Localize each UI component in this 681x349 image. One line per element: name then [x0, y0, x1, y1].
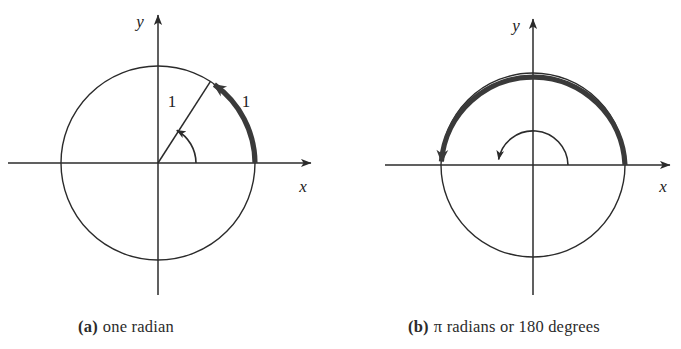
panel-a-caption-tag: (a)	[78, 317, 98, 336]
panel-a: 1 1 x y	[8, 12, 311, 295]
panel-a-caption: (a)one radian	[78, 317, 174, 337]
panel-b: x y	[385, 16, 670, 295]
panel-b-x-axis-label: x	[658, 177, 667, 196]
panel-b-caption-tag: (b)	[408, 317, 429, 336]
panel-a-x-axis-label: x	[298, 177, 307, 196]
panel-a-y-axis-label: y	[134, 12, 144, 31]
panel-a-arc-label: 1	[242, 92, 251, 111]
panel-b-y-axis-label: y	[510, 16, 520, 35]
panel-b-caption-text: π radians or 180 degrees	[434, 317, 600, 336]
panel-a-radius-segment	[158, 81, 211, 163]
panel-a-radius-label: 1	[168, 92, 177, 111]
panel-b-caption: (b)π radians or 180 degrees	[408, 317, 600, 337]
radian-figure: 1 1 x y x y	[0, 0, 681, 349]
panel-a-caption-text: one radian	[103, 317, 174, 336]
panel-a-angle-arc	[177, 130, 196, 163]
